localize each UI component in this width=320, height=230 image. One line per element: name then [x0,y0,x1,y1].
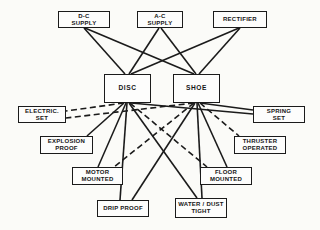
edge-rectifier-shoe [199,28,240,74]
edge-dc-supply-disc [84,28,125,74]
node-label: SET [273,115,285,122]
edge-ac-supply-disc [129,28,159,74]
node-rectifier: RECTIFIER [213,11,267,28]
node-label: OPERATED [243,145,278,152]
edge-disc-water-dust-tight [129,103,197,198]
node-label: D-C [78,13,89,20]
node-label: SHOE [186,85,207,92]
node-label: DISC [118,85,136,92]
node-label: SPRING [267,108,292,115]
edge-disc-drip-proof [120,103,127,200]
node-label: ELECTRIC. [25,108,59,115]
node-label: RECTIFIER [223,16,257,23]
node-spring-set: SPRINGSET [253,106,305,123]
node-shoe: SHOE [173,74,220,103]
node-label: PROOF [55,145,78,152]
node-label: SET [36,115,48,122]
node-label: WATER / DUST [178,201,224,208]
node-label: THRUSTER [243,138,278,145]
node-label: MOUNTED [210,176,242,183]
node-disc: DISC [104,74,151,103]
node-explosion-proof: EXPLOSIONPROOF [40,136,93,154]
node-drip-proof: DRIP PROOF [97,200,149,217]
node-electric-set: ELECTRIC.SET [18,106,66,123]
edge-rectifier-disc [131,28,239,74]
node-label: TIGHT [191,208,210,215]
node-label: EXPLOSION [48,138,85,145]
diagram-canvas: D-CSUPPLYA-CSUPPLYRECTIFIERDISCSHOEELECT… [0,0,320,230]
node-label: MOTOR [86,169,109,176]
edge-disc-motor-mounted [98,103,126,167]
node-label: SUPPLY [148,20,173,27]
node-floor-mounted: FLOORMOUNTED [200,167,252,185]
node-label: FLOOR [215,169,237,176]
node-ac-supply: A-CSUPPLY [137,11,183,28]
node-water-dust-tight: WATER / DUSTTIGHT [175,198,227,218]
node-label: DRIP PROOF [103,205,143,212]
node-thruster-operated: THRUSTEROPERATED [234,136,286,154]
node-label: MOUNTED [81,176,113,183]
node-label: A-C [154,13,165,20]
node-dc-supply: D-CSUPPLY [58,11,110,28]
node-label: SUPPLY [72,20,97,27]
edge-shoe-floor-mounted [198,103,227,167]
node-motor-mounted: MOTORMOUNTED [72,167,123,185]
